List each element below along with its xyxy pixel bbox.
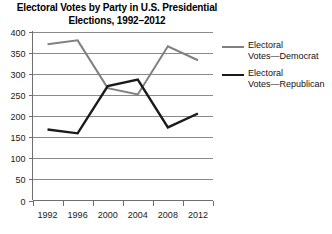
- legend-label-democrat: Electoral Votes—Democrat: [248, 40, 319, 61]
- legend-swatch-democrat: [222, 46, 244, 48]
- y-tick-label: 250: [10, 91, 25, 101]
- x-tick-label: 2004: [128, 210, 148, 220]
- y-tick-label: 50: [15, 175, 25, 185]
- x-axis-ticks: [34, 201, 214, 206]
- legend-entry-republican: Electoral Votes—Republican: [222, 68, 332, 89]
- y-tick-label: 150: [10, 133, 25, 143]
- series-line-democrat: [48, 40, 198, 94]
- y-tick-label: 300: [10, 70, 25, 80]
- x-tick-label: 1996: [68, 210, 88, 220]
- plot-area: 050100150200250300350400 199219962000200…: [0, 0, 332, 234]
- x-axis-labels: 199219962000200420082012: [38, 210, 208, 220]
- legend-swatch-republican: [222, 74, 244, 76]
- legend-label-republican: Electoral Votes—Republican: [248, 68, 325, 89]
- y-tick-label: 400: [10, 28, 25, 38]
- x-tick-label: 2008: [158, 210, 178, 220]
- chart-container: Electoral Votes by Party in U.S. Preside…: [0, 0, 332, 234]
- legend-entry-democrat: Electoral Votes—Democrat: [222, 40, 332, 61]
- y-tick-label: 100: [10, 154, 25, 164]
- x-tick-label: 2012: [188, 210, 208, 220]
- y-tick-label: 0: [20, 197, 25, 207]
- y-tick-label: 350: [10, 49, 25, 59]
- data-series: [48, 40, 198, 133]
- x-tick-label: 2000: [98, 210, 118, 220]
- y-tick-label: 200: [10, 112, 25, 122]
- y-axis-labels: 050100150200250300350400: [10, 28, 25, 207]
- x-tick-label: 1992: [38, 210, 58, 220]
- series-line-republican: [48, 80, 198, 134]
- chart-legend: Electoral Votes—DemocratElectoral Votes—…: [222, 40, 332, 96]
